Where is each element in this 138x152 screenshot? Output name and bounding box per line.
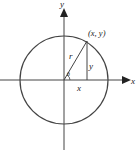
unit-circle-diagram: y x (x, y) r y x θ bbox=[0, 0, 138, 152]
opposite-label: y bbox=[88, 61, 93, 71]
y-axis-label: y bbox=[59, 0, 64, 9]
x-axis-label: x bbox=[130, 76, 135, 86]
x-axis-arrow-icon bbox=[122, 76, 131, 84]
y-axis-arrow-icon bbox=[60, 8, 68, 17]
adjacent-label: x bbox=[76, 83, 81, 93]
point-label: (x, y) bbox=[88, 28, 106, 38]
angle-label: θ bbox=[67, 71, 70, 77]
radius-label: r bbox=[69, 51, 73, 61]
